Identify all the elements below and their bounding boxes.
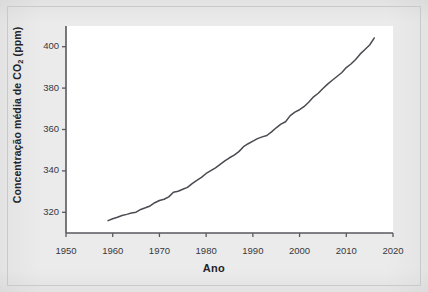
tick-label: 1990 bbox=[242, 245, 263, 256]
y-axis-title-units: (ppm) bbox=[11, 27, 23, 60]
tick-label: 2010 bbox=[336, 245, 357, 256]
tick-label: 360 bbox=[43, 123, 59, 134]
plot-area-background bbox=[66, 26, 393, 233]
tick-label: 2020 bbox=[382, 245, 403, 256]
tick-label: 320 bbox=[43, 206, 59, 217]
x-axis-ticks: 19501960197019801990200020102020 bbox=[55, 233, 403, 256]
tick-label: 1960 bbox=[102, 245, 123, 256]
tick-label: 400 bbox=[43, 40, 59, 51]
tick-label: 1980 bbox=[196, 245, 217, 256]
tick-label: 1950 bbox=[55, 245, 76, 256]
co2-line-chart: 320340360380400 195019601970198019902000… bbox=[0, 0, 428, 292]
y-axis-title-main: Concentração média de CO bbox=[11, 64, 23, 204]
y-axis-title-container: Concentração média de CO2 (ppm) bbox=[0, 0, 28, 236]
tick-label: 380 bbox=[43, 82, 59, 93]
x-axis-title: Ano bbox=[0, 262, 428, 274]
tick-label: 2000 bbox=[289, 245, 310, 256]
y-axis-ticks: 320340360380400 bbox=[43, 40, 66, 217]
y-axis-title-subscript: 2 bbox=[16, 59, 25, 63]
tick-label: 340 bbox=[43, 164, 59, 175]
figure-container: 320340360380400 195019601970198019902000… bbox=[0, 0, 428, 292]
tick-label: 1970 bbox=[149, 245, 170, 256]
y-axis-title: Concentração média de CO2 (ppm) bbox=[11, 10, 25, 220]
